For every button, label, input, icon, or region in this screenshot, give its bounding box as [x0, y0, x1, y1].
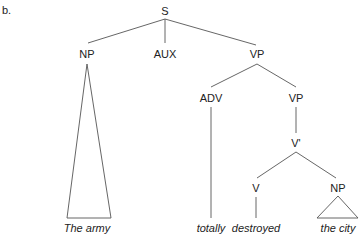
node-np2: NP	[330, 182, 345, 194]
node-np: NP	[79, 48, 94, 60]
node-v: V	[252, 182, 259, 194]
node-aux: AUX	[154, 48, 177, 60]
leaf-the-army: The army	[64, 222, 110, 234]
tree-edges	[0, 0, 359, 239]
node-vbar: V'	[291, 137, 300, 149]
node-vp2: VP	[289, 92, 304, 104]
node-s: S	[161, 5, 168, 17]
node-adv: ADV	[200, 92, 223, 104]
node-vp: VP	[250, 48, 265, 60]
leaf-destroyed: destroyed	[232, 222, 280, 234]
leaf-totally: totally	[197, 222, 226, 234]
leaf-the-city: the city	[321, 222, 356, 234]
